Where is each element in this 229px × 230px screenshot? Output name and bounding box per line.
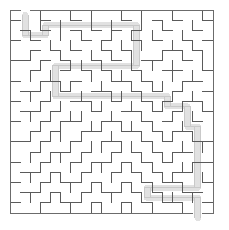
maze-walls: [10, 10, 213, 213]
maze-figure: [0, 0, 229, 230]
maze-canvas: [0, 0, 229, 230]
